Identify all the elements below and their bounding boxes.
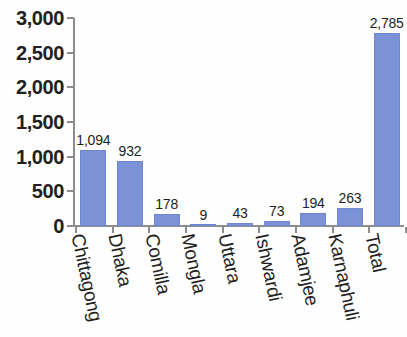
y-axis-tick-mark [67,156,74,158]
y-axis-tick-mark [67,52,74,54]
y-axis-tick-mark [67,17,74,19]
bar[interactable] [300,213,326,226]
x-axis-category-label: Chittagong [69,232,106,323]
y-axis-tick-label: 3,000 [6,8,64,28]
bar[interactable] [337,208,363,226]
y-axis-tick-label: 2,000 [6,77,64,97]
x-axis-category-label: Mongla [179,232,210,295]
x-axis-category-label: Adamjee [289,232,323,307]
bar-value-label: 263 [325,191,376,205]
x-axis-category-label: Ishwardi [252,232,285,303]
bar[interactable] [80,150,106,226]
x-axis-category-label: Total [362,232,389,274]
x-axis-category-label: Comilla [142,232,173,296]
y-axis-tick-mark [67,190,74,192]
x-axis-category-label: Karnaphuli [325,232,362,322]
x-axis-category-label: Uttara [215,232,244,285]
y-axis-tick-label: 500 [6,181,64,201]
bar[interactable] [264,221,290,226]
y-axis-tick-mark [67,121,74,123]
bar[interactable] [117,161,143,226]
bar-value-label: 932 [105,144,156,158]
y-axis-tick-mark [67,86,74,88]
y-axis-tick-label: 2,500 [6,43,64,63]
plot-area: 1,094932178943731942632,785 [75,18,405,226]
bar-chart: 3,0002,5002,0001,5001,0005000 1,09493217… [0,0,407,337]
y-axis-tick-label: 1,500 [6,112,64,132]
bar[interactable] [154,214,180,226]
y-axis-tick-label: 1,000 [6,147,64,167]
bar[interactable] [374,33,400,226]
bar[interactable] [227,223,253,226]
bar-value-label: 2,785 [361,16,407,30]
bar[interactable] [190,224,216,226]
y-axis-tick-mark [67,225,74,227]
y-axis-tick-label: 0 [6,216,64,236]
x-axis-category-label: Dhaka [105,232,135,288]
x-axis-category-labels: ChittagongDhakaComillaMonglaUttaraIshwar… [75,232,405,337]
y-axis-tick-labels: 3,0002,5002,0001,5001,0005000 [2,0,64,337]
